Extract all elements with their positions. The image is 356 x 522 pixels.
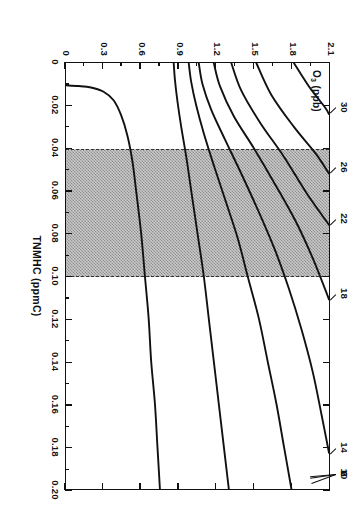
contour-leader-30 bbox=[330, 108, 337, 115]
x-tick-top-3 bbox=[323, 190, 330, 191]
contour-leader-14 bbox=[330, 448, 337, 455]
x-tick-major-0 bbox=[65, 62, 72, 63]
contour-label-14: 14 bbox=[339, 442, 350, 453]
contour-curves bbox=[66, 63, 329, 489]
ozone-isopleth-figure: 00.020.040.060.080.100.120.140.160.180.2… bbox=[0, 0, 356, 522]
x-tick-minor-2 bbox=[65, 169, 69, 170]
y-tick-major-4 bbox=[215, 62, 216, 69]
x-tick-label-4: 0.08 bbox=[50, 224, 61, 243]
x-tick-label-6: 0.12 bbox=[50, 309, 61, 328]
y-tick-minor-4 bbox=[234, 62, 235, 66]
x-tick-top-9 bbox=[323, 447, 330, 448]
y-tick-minor-3 bbox=[196, 62, 197, 66]
contour-line-2 bbox=[66, 85, 160, 489]
plot-area bbox=[65, 62, 330, 490]
x-tick-major-8 bbox=[65, 404, 72, 405]
x-tick-minor-3 bbox=[65, 212, 69, 213]
key-label: O3 (ppb) bbox=[309, 70, 322, 112]
x-tick-major-5 bbox=[65, 276, 72, 277]
y-tick-right-4 bbox=[215, 483, 216, 490]
contour-label-18: 18 bbox=[339, 288, 350, 299]
y-tick-right-7 bbox=[329, 483, 330, 490]
contour-leader-26 bbox=[330, 167, 337, 174]
contour-label-10: 10 bbox=[339, 469, 350, 480]
y-tick-right-0 bbox=[64, 483, 65, 490]
y-tick-major-0 bbox=[64, 62, 65, 69]
x-tick-label-5: 0.10 bbox=[50, 266, 61, 285]
x-tick-label-2: 0.04 bbox=[50, 138, 61, 157]
y-tick-minor-1 bbox=[121, 62, 122, 66]
x-tick-major-3 bbox=[65, 190, 72, 191]
x-tick-major-1 bbox=[65, 105, 72, 106]
x-tick-label-10: 0.20 bbox=[50, 480, 61, 499]
y-tick-right-3 bbox=[177, 483, 178, 490]
contour-label-22: 22 bbox=[339, 213, 350, 224]
x-tick-top-1 bbox=[323, 105, 330, 106]
x-tick-top-2 bbox=[323, 148, 330, 149]
x-tick-major-4 bbox=[65, 233, 72, 234]
x-tick-minor-0 bbox=[65, 83, 69, 84]
y-tick-right-5 bbox=[253, 483, 254, 490]
y-tick-minor-0 bbox=[83, 62, 84, 66]
y-tick-minor-2 bbox=[158, 62, 159, 66]
x-tick-top-7 bbox=[323, 362, 330, 363]
y-tick-major-1 bbox=[102, 62, 103, 69]
x-tick-minor-7 bbox=[65, 383, 69, 384]
y-tick-minor-5 bbox=[272, 62, 273, 66]
x-tick-major-7 bbox=[65, 362, 72, 363]
x-tick-major-2 bbox=[65, 148, 72, 149]
y-tick-major-6 bbox=[291, 62, 292, 69]
x-tick-label-0: 0 bbox=[50, 59, 61, 64]
y-tick-major-3 bbox=[177, 62, 178, 69]
contour-leader-22 bbox=[330, 219, 337, 226]
x-tick-minor-5 bbox=[65, 297, 69, 298]
contour-leader-18 bbox=[330, 294, 337, 301]
y-tick-major-5 bbox=[253, 62, 254, 69]
x-tick-top-6 bbox=[323, 319, 330, 320]
x-tick-label-7: 0.14 bbox=[50, 352, 61, 371]
x-tick-minor-4 bbox=[65, 255, 69, 256]
x-tick-major-10 bbox=[65, 490, 72, 491]
x-tick-minor-1 bbox=[65, 126, 69, 127]
y-tick-major-2 bbox=[139, 62, 140, 69]
x-tick-minor-8 bbox=[65, 426, 69, 427]
x-tick-top-5 bbox=[323, 276, 330, 277]
x-tick-label-1: 0.02 bbox=[50, 95, 61, 114]
x-tick-label-8: 0.16 bbox=[50, 395, 61, 414]
figure-rotated-wrapper: 00.020.040.060.080.100.120.140.160.180.2… bbox=[0, 0, 356, 522]
x-tick-minor-9 bbox=[65, 469, 69, 470]
y-tick-right-6 bbox=[291, 483, 292, 490]
x-tick-top-8 bbox=[323, 404, 330, 405]
x-tick-minor-6 bbox=[65, 340, 69, 341]
y-tick-right-1 bbox=[102, 483, 103, 490]
x-tick-major-6 bbox=[65, 319, 72, 320]
x-tick-major-9 bbox=[65, 447, 72, 448]
contour-label-26: 26 bbox=[339, 162, 350, 173]
x-tick-label-9: 0.18 bbox=[50, 438, 61, 457]
x-tick-top-4 bbox=[323, 233, 330, 234]
contour-label-30: 30 bbox=[339, 102, 350, 113]
x-tick-label-3: 0.06 bbox=[50, 181, 61, 200]
y-tick-right-2 bbox=[139, 483, 140, 490]
y-tick-minor-6 bbox=[310, 62, 311, 66]
y-tick-major-7 bbox=[329, 62, 330, 69]
x-axis-title: TNMHC (ppmC) bbox=[31, 62, 43, 490]
x-tick-top-10 bbox=[323, 490, 330, 491]
